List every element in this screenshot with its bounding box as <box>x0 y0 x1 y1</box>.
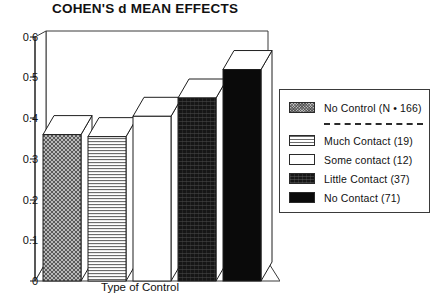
legend-item-little-contact[interactable]: Little Contact (37) <box>289 169 423 188</box>
legend-label-some-contact: Some contact (12) <box>324 154 412 166</box>
legend: No Control (N • 166) Much Contact (19) S… <box>279 89 430 213</box>
plot-area: 0.6 0.5 0.4 0.3 0.2 0.1 0 Type of Contro… <box>0 0 280 303</box>
legend-separator-line <box>324 123 423 125</box>
bar-5 <box>223 51 272 281</box>
legend-label-no-control: No Control (N • 166) <box>324 102 422 114</box>
legend-label-little-contact: Little Contact (37) <box>324 173 410 185</box>
x-axis-label: Type of Control <box>0 281 280 293</box>
legend-item-no-contact[interactable]: No Contact (71) <box>289 188 423 207</box>
legend-swatch-dark-speckle <box>289 173 315 184</box>
legend-swatch-white <box>289 154 315 165</box>
bar-series <box>0 0 280 303</box>
legend-label-much-contact: Much Contact (19) <box>324 135 413 147</box>
legend-swatch-horizontal-lines <box>289 135 315 146</box>
bar-1 <box>43 116 92 281</box>
bar-4 <box>178 79 227 281</box>
legend-swatch-stipple-gray <box>289 102 315 113</box>
legend-swatch-solid-black <box>289 192 315 203</box>
legend-label-no-contact: No Contact (71) <box>324 192 400 204</box>
legend-item-no-control[interactable]: No Control (N • 166) <box>289 98 423 117</box>
legend-items: No Control (N • 166) Much Contact (19) S… <box>289 98 423 207</box>
bar-2 <box>88 118 137 281</box>
legend-item-some-contact[interactable]: Some contact (12) <box>289 150 423 169</box>
bar-3 <box>133 97 182 281</box>
legend-item-much-contact[interactable]: Much Contact (19) <box>289 131 423 150</box>
legend-separator <box>289 117 423 131</box>
